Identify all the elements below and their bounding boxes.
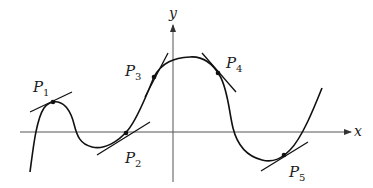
- label-p4: P4: [225, 54, 242, 74]
- x-axis-label: x: [354, 123, 362, 139]
- function-graph-diagram: x y P1 P2 P3 P4 P5: [0, 0, 373, 188]
- point-p5: [282, 153, 287, 158]
- function-curve: [30, 57, 322, 172]
- point-p3: [152, 75, 157, 80]
- point-p4: [216, 71, 221, 76]
- y-axis-label: y: [168, 5, 178, 21]
- label-p1: P1: [32, 78, 49, 98]
- point-p1: [51, 100, 56, 105]
- label-p5: P5: [288, 163, 305, 183]
- label-p3: P3: [124, 62, 141, 82]
- label-p2: P2: [124, 149, 141, 169]
- point-p2: [124, 131, 129, 136]
- tangent-line-p2: [97, 122, 150, 155]
- tangent-line-p3: [145, 53, 168, 97]
